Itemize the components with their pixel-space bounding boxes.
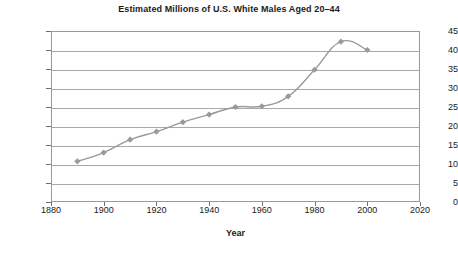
y-axis-tick-label: 10	[416, 159, 458, 169]
chart-container: Estimated Millions of U.S. White Males A…	[0, 0, 458, 258]
y-axis-tick-mark	[46, 88, 51, 89]
data-point-marker	[127, 137, 133, 143]
x-axis-tick-mark	[367, 202, 368, 206]
data-point-marker	[180, 119, 186, 125]
x-axis-tick-label: 2020	[398, 205, 442, 215]
data-point-marker	[74, 158, 80, 164]
x-axis-tick-mark	[156, 202, 157, 206]
data-point-marker	[206, 112, 212, 118]
series-line-path	[77, 41, 367, 162]
x-axis-tick-mark	[104, 202, 105, 206]
y-axis-tick-mark	[46, 183, 51, 184]
y-axis-tick-label: 40	[416, 45, 458, 55]
y-axis-tick-label: 45	[416, 26, 458, 36]
y-axis-tick-mark	[46, 31, 51, 32]
y-axis-tick-mark	[46, 69, 51, 70]
y-axis-tick-mark	[46, 50, 51, 51]
x-axis-tick-label: 1920	[134, 205, 178, 215]
y-axis-tick-mark	[46, 164, 51, 165]
y-axis-tick-label: 30	[416, 83, 458, 93]
data-point-marker	[101, 150, 107, 156]
y-axis-tick-label: 35	[416, 64, 458, 74]
y-axis-tick-label: 15	[416, 140, 458, 150]
y-axis-tick-mark	[46, 126, 51, 127]
y-axis-tick-mark	[46, 145, 51, 146]
data-point-marker	[153, 129, 159, 135]
x-axis-tick-label: 1940	[187, 205, 231, 215]
data-point-marker	[338, 39, 344, 45]
x-axis-tick-mark	[315, 202, 316, 206]
x-axis-tick-label: 1900	[82, 205, 126, 215]
x-axis-tick-mark	[420, 202, 421, 206]
x-axis-tick-mark	[262, 202, 263, 206]
data-point-marker	[232, 104, 238, 110]
x-axis-tick-mark	[209, 202, 210, 206]
x-axis-tick-label: 2000	[345, 205, 389, 215]
data-point-marker	[364, 47, 370, 53]
data-series-line	[51, 31, 420, 202]
y-axis-tick-label: 5	[416, 178, 458, 188]
x-axis-tick-label: 1880	[29, 205, 73, 215]
y-axis-tick-label: 25	[416, 102, 458, 112]
x-axis-tick-mark	[51, 202, 52, 206]
x-axis-title: Year	[51, 228, 420, 238]
data-point-marker	[259, 103, 265, 109]
y-axis-tick-mark	[46, 107, 51, 108]
x-axis-tick-label: 1960	[240, 205, 284, 215]
x-axis-tick-label: 1980	[293, 205, 337, 215]
y-axis-tick-label: 20	[416, 121, 458, 131]
chart-title: Estimated Millions of U.S. White Males A…	[0, 4, 458, 14]
